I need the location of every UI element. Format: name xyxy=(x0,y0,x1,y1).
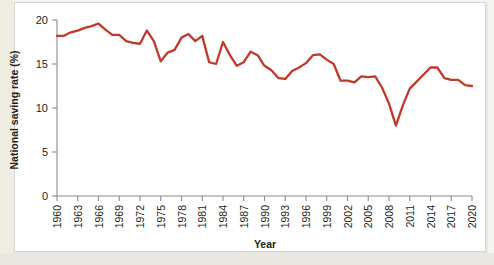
x-tick-label: 1981 xyxy=(196,205,208,229)
x-tick-label: 2005 xyxy=(362,205,374,229)
x-tick-label: 1963 xyxy=(72,205,84,229)
x-axis: 1960196319661969197219751978198119841987… xyxy=(51,196,478,228)
x-tick-label: 1975 xyxy=(155,205,167,229)
x-tick-label: 2008 xyxy=(383,205,395,229)
y-tick-label: 0 xyxy=(42,190,48,202)
x-tick-label: 2014 xyxy=(425,205,437,229)
y-tick-label: 15 xyxy=(36,58,48,70)
x-tick-label: 1978 xyxy=(176,205,188,229)
x-axis-title: Year xyxy=(254,238,276,250)
x-tick-label: 1960 xyxy=(51,205,63,229)
y-tick-label: 20 xyxy=(36,14,48,26)
x-tick-label: 1987 xyxy=(238,205,250,229)
x-tick-label: 2020 xyxy=(466,205,478,229)
y-tick-label: 5 xyxy=(42,146,48,158)
x-tick-label: 1996 xyxy=(300,205,312,229)
x-tick-label: 1969 xyxy=(113,205,125,229)
x-tick-label: 2002 xyxy=(342,205,354,229)
x-tick-label: 2017 xyxy=(445,205,457,229)
series-line xyxy=(57,24,472,126)
x-tick-label: 1972 xyxy=(134,205,146,229)
x-tick-label: 1999 xyxy=(321,205,333,229)
x-tick-label: 1990 xyxy=(259,205,271,229)
line-chart: 05101520 1960196319661969197219751978198… xyxy=(0,0,494,265)
x-tick-label: 1984 xyxy=(217,205,229,229)
figure-container: 05101520 1960196319661969197219751978198… xyxy=(0,0,494,265)
x-tick-label: 1966 xyxy=(93,205,105,229)
y-tick-label: 10 xyxy=(36,102,48,114)
y-axis-title: National saving rate (%) xyxy=(8,50,20,169)
x-tick-label: 1993 xyxy=(279,205,291,229)
y-axis: 05101520 xyxy=(36,14,57,202)
x-tick-label: 2011 xyxy=(404,205,416,228)
series-group xyxy=(57,24,472,126)
